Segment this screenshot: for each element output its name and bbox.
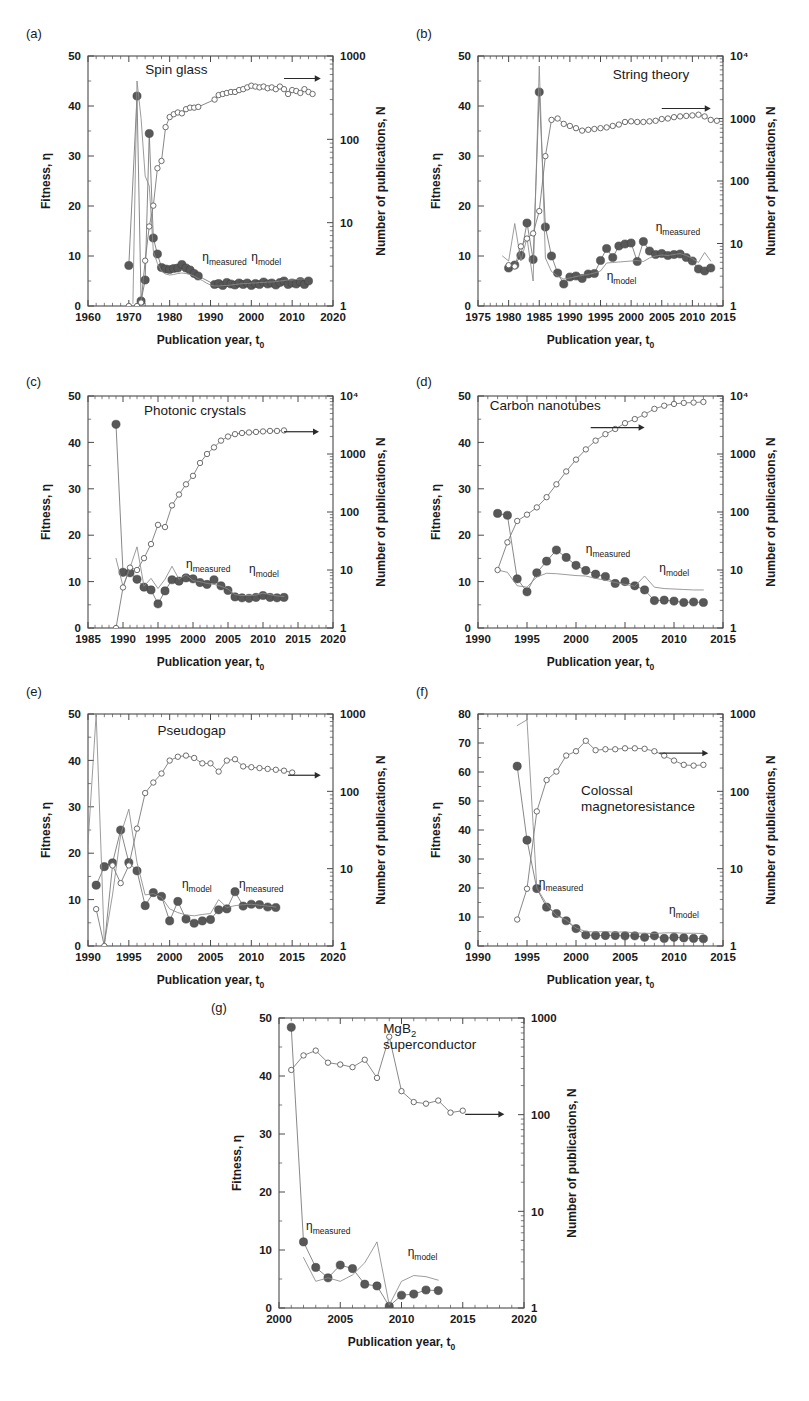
data-point-measured — [690, 934, 698, 942]
data-point-publications — [708, 117, 713, 122]
data-point-publications — [561, 121, 566, 126]
series-line-publications — [129, 86, 313, 306]
data-point-measured — [145, 129, 153, 137]
panel-title-line2: magnetoresistance — [581, 799, 695, 814]
y-tick-label: 20 — [68, 847, 81, 859]
figure-container: (a)1960197019801990200020102020010203040… — [0, 0, 809, 1401]
x-tick-label: 1990 — [557, 311, 583, 323]
data-point-measured — [239, 902, 247, 910]
y-tick-label: 70 — [458, 737, 471, 749]
y-tick-label: 40 — [68, 755, 81, 767]
data-point-measured — [182, 915, 190, 923]
data-point-measured — [670, 597, 678, 605]
data-layer — [287, 1023, 465, 1310]
data-point-measured — [680, 598, 688, 606]
data-point-publications — [603, 747, 608, 752]
y-right-tick-label: 1000 — [340, 448, 366, 460]
y-tick-label: 50 — [68, 708, 81, 720]
data-point-measured — [596, 256, 604, 264]
panel-letter: (b) — [416, 26, 432, 41]
y-tick-label: 0 — [465, 940, 471, 952]
right-axis-arrowhead — [639, 424, 645, 430]
x-tick-label: 2010 — [389, 1313, 415, 1325]
data-point-publications — [632, 746, 637, 751]
data-point-publications — [281, 86, 286, 91]
data-point-measured — [231, 888, 239, 896]
data-point-publications — [518, 244, 523, 249]
data-point-publications — [126, 863, 131, 868]
x-axis-title: Publication year, t0 — [348, 1335, 456, 1352]
panel-title: Pseudogap — [157, 723, 225, 738]
y-tick-label: 10 — [259, 1244, 272, 1256]
data-point-publications — [613, 747, 618, 752]
x-tick-label: 2015 — [710, 633, 736, 645]
data-point-publications — [176, 492, 181, 497]
data-point-measured — [147, 586, 155, 594]
data-layer — [503, 66, 720, 288]
data-point-publications — [436, 1098, 441, 1103]
data-point-publications — [155, 166, 160, 171]
y-right-tick-label: 10 — [531, 1206, 544, 1218]
annotation-eta-model: ηmodel — [251, 250, 281, 267]
y-axis-title-right: Number of publications, N — [764, 437, 778, 586]
data-point-measured — [149, 889, 157, 897]
data-point-publications — [665, 116, 670, 121]
y-right-tick-label: 1 — [730, 622, 737, 634]
data-point-publications — [127, 565, 132, 570]
y-tick-label: 50 — [259, 1012, 272, 1024]
y-axis-title-left: Fitness, η — [429, 484, 443, 540]
y-right-tick-label: 1000 — [730, 708, 756, 720]
data-point-publications — [604, 125, 609, 130]
data-point-measured — [168, 576, 176, 584]
y-tick-label: 80 — [458, 708, 471, 720]
x-tick-label: 1995 — [514, 951, 540, 963]
data-point-publications — [598, 125, 603, 130]
data-point-publications — [616, 122, 621, 127]
panel-title: Carbon nanotubes — [490, 398, 601, 413]
data-point-publications — [544, 777, 549, 782]
annotation-eta-model: ηmodel — [249, 562, 279, 579]
data-point-publications — [310, 91, 315, 96]
data-point-measured — [154, 600, 162, 608]
data-point-publications — [593, 748, 598, 753]
data-point-measured — [535, 88, 543, 96]
x-tick-label: 1985 — [75, 633, 101, 645]
data-point-measured — [641, 586, 649, 594]
data-point-publications — [151, 203, 156, 208]
data-point-publications — [579, 128, 584, 133]
data-point-measured — [621, 932, 629, 940]
data-point-measured — [117, 826, 125, 834]
y-tick-label: 10 — [68, 576, 81, 588]
data-point-publications — [583, 738, 588, 743]
data-point-publications — [573, 125, 578, 130]
y-tick-label: 10 — [458, 250, 471, 262]
data-point-publications — [662, 403, 667, 408]
data-point-measured — [125, 261, 133, 269]
data-point-publications — [515, 917, 520, 922]
panel-title: String theory — [613, 67, 690, 82]
data-point-publications — [142, 258, 147, 263]
data-point-measured — [690, 598, 698, 606]
x-tick-label: 2020 — [320, 633, 346, 645]
annotation-eta-model: ηmodel — [659, 561, 689, 578]
y-tick-label: 40 — [458, 437, 471, 449]
x-tick-label: 2005 — [649, 311, 675, 323]
y-axis-title-left: Fitness, η — [39, 484, 53, 540]
x-tick-label: 2015 — [710, 311, 736, 323]
data-point-measured — [206, 915, 214, 923]
y-right-tick-label: 1 — [340, 300, 347, 312]
y-axis-title-right: Number of publications, N — [374, 106, 388, 255]
data-point-publications — [175, 754, 180, 759]
data-point-publications — [635, 119, 640, 124]
data-point-publications — [549, 117, 554, 122]
data-point-publications — [524, 512, 529, 517]
y-right-tick-label: 100 — [340, 134, 359, 146]
data-point-measured — [141, 902, 149, 910]
y-right-tick-label: 1 — [730, 300, 737, 312]
x-axis-title: Publication year, t0 — [547, 973, 655, 990]
right-axis-arrowhead — [315, 75, 321, 81]
y-tick-label: 20 — [259, 1186, 272, 1198]
annotation-eta-model: ηmodel — [408, 1245, 438, 1262]
data-point-measured — [592, 570, 600, 578]
data-point-measured — [198, 917, 206, 925]
